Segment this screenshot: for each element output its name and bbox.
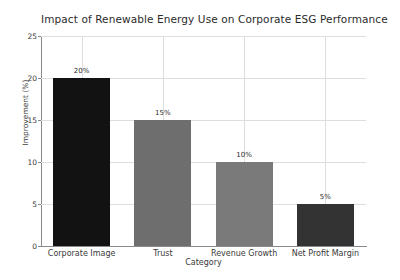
- chart-figure: Impact of Renewable Energy Use on Corpor…: [0, 0, 400, 280]
- y-axis-tick-label: 20: [11, 74, 37, 83]
- x-axis-tick-label: Revenue Growth: [204, 249, 285, 258]
- x-axis-tick-label: Net Profit Margin: [285, 249, 366, 258]
- gridline-horizontal: [41, 36, 366, 37]
- bar-value-label: 15%: [134, 109, 191, 117]
- x-axis-tick-label: Trust: [122, 249, 203, 258]
- x-axis-label: Category: [41, 258, 366, 267]
- bar[interactable]: [297, 204, 354, 246]
- y-axis-tick-label: 25: [11, 32, 37, 41]
- y-axis-tick-mark: [38, 246, 41, 247]
- bar[interactable]: [134, 120, 191, 246]
- y-axis-tick-label: 0: [11, 242, 37, 251]
- bar[interactable]: [53, 78, 110, 246]
- chart-title: Impact of Renewable Energy Use on Corpor…: [41, 13, 366, 25]
- plot-area: 20%15%10%5%: [41, 36, 366, 246]
- bar-value-label: 10%: [216, 151, 273, 159]
- y-axis-tick-label: 5: [11, 200, 37, 209]
- y-axis-tick-label: 10: [11, 158, 37, 167]
- bar-value-label: 20%: [53, 67, 110, 75]
- bar-value-label: 5%: [297, 193, 354, 201]
- x-axis-spine: [41, 246, 367, 247]
- bar[interactable]: [216, 162, 273, 246]
- y-axis-tick-label: 15: [11, 116, 37, 125]
- x-axis-tick-label: Corporate Image: [41, 249, 122, 258]
